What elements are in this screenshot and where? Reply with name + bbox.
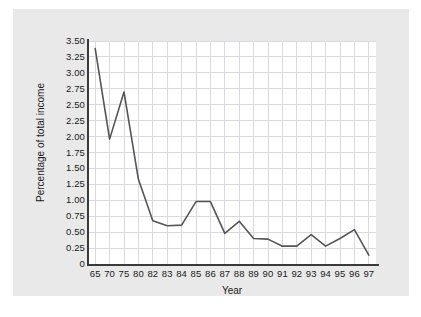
x-tick-label: 92 <box>291 268 302 280</box>
x-tick-label: 75 <box>119 268 130 280</box>
y-axis-tick-labels: 3.503.253.002.752.502.252.001.751.501.25… <box>39 9 85 296</box>
x-tick-label: 88 <box>234 268 245 280</box>
y-tick-label: 2.25 <box>41 116 85 126</box>
y-tick-label: 1.50 <box>41 163 85 173</box>
y-tick-label: 2.50 <box>41 100 85 110</box>
x-tick-label: 96 <box>349 268 360 280</box>
x-tick-label: 84 <box>176 268 187 280</box>
y-tick-label: 0 <box>41 259 85 269</box>
plot-area <box>88 41 376 264</box>
x-tick-label: 83 <box>162 268 173 280</box>
y-tick-label: 1.00 <box>41 195 85 205</box>
y-tick-label: 1.25 <box>41 179 85 189</box>
y-tick-label: 0.50 <box>41 227 85 237</box>
y-tick-label: 3.25 <box>41 52 85 62</box>
x-tick-label: 86 <box>205 268 216 280</box>
x-tick-label: 90 <box>263 268 274 280</box>
x-axis-tick-labels: 6570758082838485868788899091929394959697 <box>88 268 376 284</box>
x-tick-label: 97 <box>363 268 374 280</box>
x-tick-label: 85 <box>191 268 202 280</box>
x-axis-title: Year <box>88 285 376 296</box>
y-tick-label: 0.75 <box>41 211 85 221</box>
y-tick-label: 2.00 <box>41 132 85 142</box>
y-tick-label: 1.75 <box>41 148 85 158</box>
y-tick-label: 0.25 <box>41 243 85 253</box>
x-tick-label: 94 <box>320 268 331 280</box>
x-tick-label: 82 <box>147 268 158 280</box>
chart-figure-panel: Percentage of total income 3.503.253.002… <box>13 9 409 296</box>
x-tick-label: 87 <box>219 268 230 280</box>
y-tick-label: 3.50 <box>41 36 85 46</box>
x-tick-label: 89 <box>248 268 259 280</box>
y-tick-label: 2.75 <box>41 84 85 94</box>
x-tick-label: 95 <box>335 268 346 280</box>
x-tick-label: 93 <box>306 268 317 280</box>
x-tick-label: 91 <box>277 268 288 280</box>
y-axis-line <box>87 39 89 266</box>
y-tick-label: 3.00 <box>41 68 85 78</box>
x-tick-label: 65 <box>90 268 101 280</box>
data-line-series <box>88 41 376 264</box>
x-tick-label: 70 <box>104 268 115 280</box>
x-axis-line <box>87 264 379 266</box>
chart-page: Percentage of total income 3.503.253.002… <box>0 0 421 317</box>
x-tick-label: 80 <box>133 268 144 280</box>
